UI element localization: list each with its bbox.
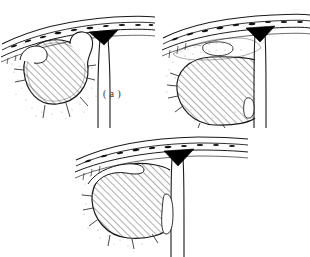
hatched-mass-b (177, 57, 255, 125)
panel-b-drawing (155, 0, 310, 128)
diploic-markings-c (85, 144, 235, 163)
panel-label-a: ( a ) (103, 89, 121, 99)
superior-sagittal-sinus-a (89, 30, 118, 45)
vessel-loop-b (244, 98, 254, 118)
dural-fold-falx-a (98, 38, 110, 128)
crescent-cleft-a (20, 46, 47, 63)
skull-outer-table-b (163, 14, 310, 38)
figure-plate: ( a ) (0, 0, 310, 257)
figure-panel-b: ( b ) (155, 0, 310, 128)
figure-panel-a: ( a ) (0, 0, 155, 128)
vessel-loop-c (162, 194, 173, 234)
panel-c-drawing (70, 128, 250, 257)
panel-a-drawing (0, 0, 155, 128)
figure-panel-c: ( c ) (70, 128, 250, 257)
